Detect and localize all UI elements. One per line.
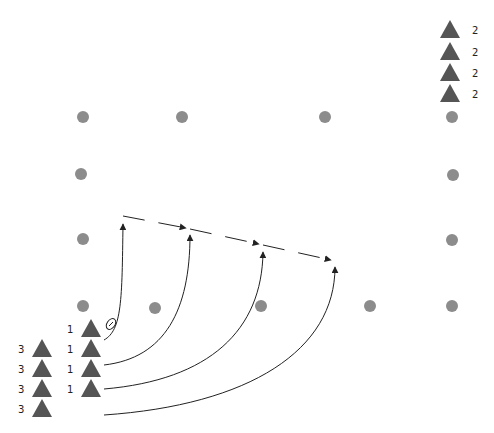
run-arrow	[104, 267, 335, 415]
passes-layer	[123, 216, 331, 260]
player-triangle	[81, 379, 101, 397]
runs-layer	[104, 224, 335, 415]
ball-icon	[104, 317, 117, 331]
player-count-label: 1	[67, 364, 73, 375]
drill-diagram: 33331111 2222	[0, 0, 494, 433]
cone-marker	[176, 111, 188, 123]
cone-marker	[447, 169, 459, 181]
player-triangle	[81, 359, 101, 377]
player-count-label: 3	[18, 384, 24, 395]
players-layer: 33331111	[18, 319, 101, 417]
legend-player-triangle	[440, 63, 460, 81]
player-count-label: 1	[67, 384, 73, 395]
player-triangle	[81, 319, 101, 337]
pass-arrow	[190, 229, 259, 244]
cone-marker	[149, 302, 161, 314]
cone-marker	[446, 234, 458, 246]
legend-count-label: 2	[472, 47, 478, 58]
pass-arrow	[123, 216, 186, 228]
legend-player-triangle	[440, 42, 460, 60]
cones-layer	[75, 111, 459, 314]
cone-marker	[255, 300, 267, 312]
player-triangle	[81, 339, 101, 357]
legend-count-label: 2	[472, 68, 478, 79]
player-triangle	[32, 379, 52, 397]
player-count-label: 3	[18, 344, 24, 355]
legend-count-label: 2	[472, 89, 478, 100]
legend-player-triangle	[440, 20, 460, 38]
legend-player-triangle	[440, 84, 460, 102]
legend-count-label: 2	[472, 25, 478, 36]
cone-marker	[77, 300, 89, 312]
cone-marker	[77, 111, 89, 123]
player-count-label: 3	[18, 364, 24, 375]
player-triangle	[32, 359, 52, 377]
cone-marker	[75, 168, 87, 180]
run-arrow	[104, 235, 190, 365]
pass-arrow	[263, 245, 331, 260]
cone-marker	[319, 111, 331, 123]
run-arrow	[104, 252, 263, 389]
legend-top-right: 2222	[440, 20, 478, 102]
player-triangle	[32, 339, 52, 357]
cone-marker	[77, 233, 89, 245]
player-count-label: 1	[67, 324, 73, 335]
cone-marker	[446, 300, 458, 312]
player-count-label: 1	[67, 344, 73, 355]
cone-marker	[364, 300, 376, 312]
player-count-label: 3	[18, 404, 24, 415]
player-triangle	[32, 399, 52, 417]
cone-marker	[446, 111, 458, 123]
